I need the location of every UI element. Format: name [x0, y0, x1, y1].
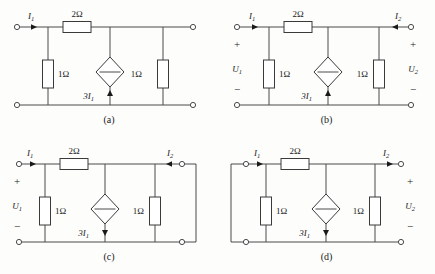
resistor-1ohm-left [43, 60, 54, 88]
u2-label: U2 [408, 64, 419, 75]
u1-plus: + [14, 175, 20, 187]
panel-b-caption: (b) [218, 114, 435, 125]
source-current-arrow-up [325, 90, 331, 96]
u2-plus: + [410, 38, 416, 50]
u2-label: U2 [405, 201, 416, 212]
circuit-figure-grid: 2Ω 1Ω 1Ω 3I1 I1 (a) [0, 0, 435, 274]
i1-arrow [257, 161, 263, 167]
u1-label: U1 [232, 64, 242, 75]
resistor-1ohm-left [261, 197, 272, 225]
resistor-1ohm-left-label: 1Ω [279, 69, 291, 79]
resistor-1ohm-right-label: 1Ω [131, 69, 143, 79]
u2-minus: − [410, 83, 416, 95]
resistor-2ohm [281, 159, 309, 170]
i2-arrow [166, 161, 172, 167]
terminal-bottom-left [243, 239, 248, 244]
u1-plus: + [234, 38, 240, 50]
resistor-2ohm-label: 2Ω [292, 9, 304, 19]
panel-c-caption: (c) [0, 251, 218, 262]
resistor-1ohm-right [150, 197, 161, 225]
i1-label: I1 [248, 11, 255, 22]
i1-label: I1 [26, 148, 33, 159]
i1-arrow [30, 161, 36, 167]
terminal-top-left [234, 24, 239, 29]
terminal-bottom-left [16, 239, 21, 244]
terminal-top-right [408, 24, 413, 29]
resistor-1ohm-left-label: 1Ω [58, 69, 70, 79]
resistor-2ohm-label: 2Ω [289, 146, 301, 156]
terminal-top-left [243, 161, 248, 166]
terminal-bottom-right [190, 102, 195, 107]
u1-minus: − [14, 220, 20, 232]
resistor-2ohm-label: 2Ω [71, 9, 83, 19]
resistor-1ohm-right-label: 1Ω [357, 69, 369, 79]
source-label: 3I1 [298, 228, 310, 239]
terminal-bottom-right [398, 239, 403, 244]
u1-minus: − [234, 83, 240, 95]
resistor-1ohm-left-label: 1Ω [276, 206, 288, 216]
resistor-2ohm [60, 159, 88, 170]
i2-label: I2 [394, 11, 402, 22]
u2-plus: + [407, 175, 413, 187]
resistor-1ohm-right-label: 1Ω [133, 206, 145, 216]
resistor-2ohm-label: 2Ω [68, 146, 80, 156]
i1-arrow [252, 24, 258, 30]
circuit-panel-c: 2Ω 1Ω 1Ω 3I1 I1 I2 + − U1 (c) [0, 137, 218, 274]
panel-d-caption: (d) [218, 251, 435, 262]
source-current-arrow-down [102, 230, 108, 236]
terminal-top-right [190, 24, 195, 29]
terminal-top-left [16, 161, 21, 166]
resistor-1ohm-right [374, 60, 385, 88]
circuit-panel-b: 2Ω 1Ω 1Ω 3I1 I1 I2 + − U1 + − U2 ( [218, 0, 435, 137]
resistor-1ohm-left [264, 60, 275, 88]
resistor-2ohm [63, 22, 91, 33]
circuit-panel-a: 2Ω 1Ω 1Ω 3I1 I1 (a) [0, 0, 218, 137]
i2-label: I2 [382, 148, 390, 159]
source-label: 3I1 [77, 228, 89, 239]
resistor-1ohm-right [158, 60, 169, 88]
terminal-bottom-left [234, 102, 239, 107]
circuit-panel-d: 2Ω 1Ω 1Ω 3I1 I1 I2 + − U2 (d) [218, 137, 435, 274]
resistor-2ohm [284, 22, 312, 33]
i1-label: I1 [27, 11, 34, 22]
terminal-bottom-left [14, 102, 19, 107]
u2-minus: − [407, 220, 413, 232]
source-current-arrow-up [107, 90, 113, 96]
resistor-1ohm-left [40, 197, 51, 225]
i2-arrow [392, 24, 398, 30]
terminal-top-right [398, 161, 403, 166]
source-label: 3I1 [82, 91, 94, 102]
terminal-top-right [179, 161, 184, 166]
source-label: 3I1 [300, 91, 312, 102]
i2-label: I2 [166, 148, 174, 159]
u1-label: U1 [12, 201, 22, 212]
terminal-bottom-right [179, 239, 184, 244]
panel-a-caption: (a) [0, 114, 218, 125]
resistor-1ohm-right-label: 1Ω [353, 206, 365, 216]
terminal-bottom-right [408, 102, 413, 107]
i1-label: I1 [253, 148, 260, 159]
i2-arrow [387, 161, 393, 167]
source-current-arrow-down [323, 230, 329, 236]
resistor-1ohm-left-label: 1Ω [55, 206, 67, 216]
resistor-1ohm-right [370, 197, 381, 225]
i1-arrow [31, 24, 37, 30]
terminal-top-left [14, 24, 19, 29]
